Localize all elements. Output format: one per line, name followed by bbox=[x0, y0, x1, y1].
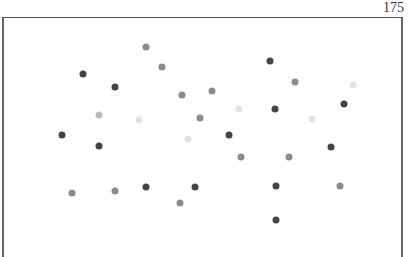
dot-medium bbox=[286, 154, 293, 161]
dot-medium bbox=[112, 188, 119, 195]
dot-medium bbox=[197, 115, 204, 122]
dot-medium bbox=[209, 88, 216, 95]
dot-dark bbox=[112, 84, 119, 91]
dot-dark bbox=[192, 184, 199, 191]
dot-dark bbox=[226, 132, 233, 139]
dot-faint bbox=[350, 82, 357, 89]
dot-medium bbox=[69, 190, 76, 197]
dot-medium bbox=[179, 92, 186, 99]
dot-dark bbox=[59, 132, 66, 139]
dot-medium bbox=[292, 79, 299, 86]
dot-dark bbox=[143, 184, 150, 191]
dot-dark bbox=[273, 217, 280, 224]
dot-faint bbox=[185, 136, 192, 143]
dot-dark bbox=[328, 144, 335, 151]
dot-faint bbox=[136, 117, 143, 124]
dot-dark bbox=[341, 101, 348, 108]
dot-medium bbox=[238, 154, 245, 161]
dot-medium bbox=[143, 44, 150, 51]
dot-dark bbox=[273, 183, 280, 190]
dot-medium bbox=[337, 183, 344, 190]
dot-faint bbox=[236, 106, 243, 113]
dot-faint bbox=[309, 116, 316, 123]
dot-dark bbox=[80, 71, 87, 78]
dot-dark bbox=[272, 106, 279, 113]
dot-dark bbox=[267, 58, 274, 65]
dot-medium bbox=[177, 200, 184, 207]
dot-dark bbox=[96, 143, 103, 150]
dot-medium bbox=[159, 64, 166, 71]
dot-light bbox=[96, 112, 103, 119]
